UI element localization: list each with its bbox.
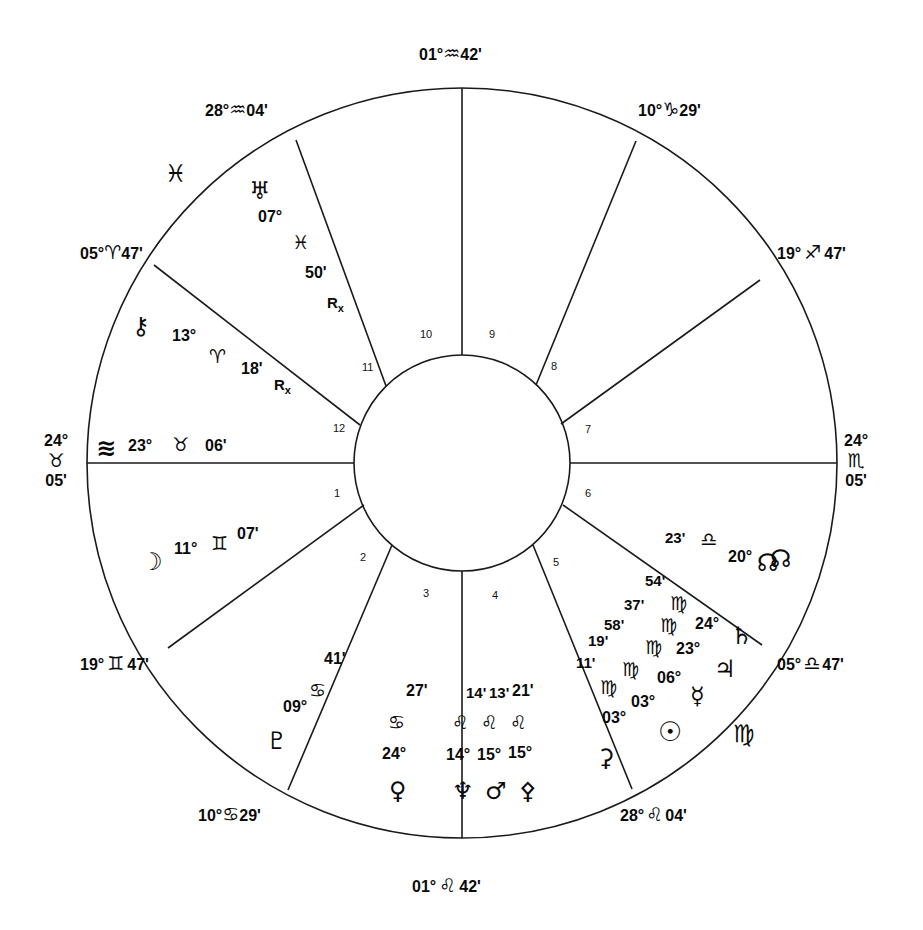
cusp-line-12	[154, 265, 360, 425]
planet-saturn-degree: 24°	[695, 615, 719, 633]
planet-mercury-minute: 58'	[604, 616, 624, 634]
venus-icon: ♀	[389, 777, 407, 805]
cusp-minute: 04'	[246, 102, 268, 119]
cusp-label-6: 05°♎47'	[777, 654, 844, 674]
planet-mars-sign: ♌	[481, 711, 498, 733]
ceres-icon: ⚳	[597, 744, 615, 772]
planet-pallas-degree: 15°	[508, 744, 532, 762]
cusp-minute: 05'	[844, 472, 868, 490]
cusp-degree: 24°	[844, 432, 868, 450]
planet-uranus-retrograde-marker: Rx	[327, 294, 344, 314]
cusp-minute: 47'	[822, 656, 844, 673]
planet-jupiter[interactable]: ♃	[714, 655, 736, 683]
cusp-label-9: 10°♑29'	[638, 100, 701, 120]
north-node-icon: ☊	[770, 545, 791, 573]
cusp-line-11	[296, 140, 386, 386]
planet-jupiter-degree: 23°	[676, 640, 700, 658]
taurus-icon: ♉	[172, 433, 189, 455]
cusp-degree: 24°	[44, 432, 68, 450]
planet-moon-sign: ♊	[211, 532, 228, 554]
house-number-2: 2	[360, 551, 366, 563]
sign-mark-virgo-icon: ♍	[733, 720, 755, 748]
planet-saturn[interactable]: ♄	[731, 622, 753, 650]
cusp-minute: 47'	[824, 245, 846, 262]
house-number-9: 9	[489, 328, 495, 340]
jupiter-icon: ♃	[714, 655, 736, 683]
house-number-12: 12	[333, 422, 345, 434]
planet-moon-degree: 11°	[174, 540, 197, 558]
house-number-1: 1	[334, 487, 340, 499]
chiron-icon: ⚷	[132, 312, 150, 340]
planet-north-node-sign: ♎	[700, 528, 717, 550]
planet-chiron[interactable]: ⚷	[132, 312, 150, 340]
cusp-minute: 42'	[460, 46, 482, 63]
ascendant-minute: 06'	[205, 437, 227, 455]
planet-uranus-minute: 50'	[305, 264, 327, 282]
planet-uranus[interactable]: ♅	[249, 177, 271, 205]
planet-venus[interactable]: ♀	[389, 777, 407, 805]
cusp-degree: 19°	[80, 656, 104, 673]
house-number-7: 7	[585, 423, 591, 435]
cusp-minute: 04'	[665, 807, 687, 824]
cusp-sign-glyph: ♌	[644, 803, 665, 825]
planet-mercury[interactable]: ☿	[690, 682, 705, 710]
planet-neptune[interactable]: ♆	[452, 777, 474, 805]
cusp-sign-glyph: ♋	[222, 803, 239, 825]
cusp-sign-glyph: ♊	[104, 652, 127, 674]
saturn-icon: ♄	[731, 622, 753, 650]
planet-mars[interactable]: ♂	[485, 777, 507, 805]
cusp-label-mc: 01°♒42'	[419, 44, 482, 64]
planet-chiron-retrograde-marker: Rx	[274, 376, 291, 396]
cusp-degree: 28°	[620, 807, 644, 824]
planet-neptune-minute: 14'	[466, 684, 486, 702]
planet-pluto-degree: 09°	[283, 698, 307, 716]
cusp-label-5: 28°♌04'	[620, 805, 687, 825]
cusp-minute: 29'	[239, 807, 261, 824]
cusp-sign-glyph: ♉	[44, 450, 68, 472]
inner-circle	[354, 355, 570, 571]
planet-saturn-sign: ♍	[670, 592, 687, 614]
leo-icon: ♌	[452, 711, 469, 733]
cusp-minute: 05'	[44, 472, 68, 490]
cusp-minute: 42'	[459, 878, 481, 895]
planet-uranus-sign: ♓	[292, 231, 309, 253]
planet-chiron-degree: 13°	[172, 327, 196, 345]
planet-pluto[interactable]: ♇	[266, 727, 288, 755]
cusp-sign-glyph: ♒	[443, 42, 460, 64]
house-number-4: 4	[492, 589, 498, 601]
planet-pallas[interactable]: ⚴	[519, 777, 537, 805]
planet-sun[interactable]: ☉	[658, 716, 682, 747]
cusp-line-2	[168, 505, 364, 648]
planet-pluto-sign: ♋	[309, 679, 326, 701]
aries-icon: ♈	[209, 345, 226, 367]
cusp-sign-glyph: ♐	[801, 241, 824, 263]
virgo-icon: ♍	[670, 592, 687, 614]
planet-ceres-minute: 11'	[576, 654, 595, 672]
uranus-icon: ♅	[249, 177, 271, 205]
gemini-icon: ♊	[211, 532, 228, 554]
cusp-line-9	[536, 141, 636, 385]
virgo-icon: ♍	[660, 614, 677, 636]
planet-north-node[interactable]: ☊	[770, 545, 791, 573]
cusp-degree: 05°	[80, 245, 104, 262]
cusp-line-8	[561, 280, 760, 424]
planet-moon[interactable]: ☽	[141, 548, 163, 576]
sun-icon: ☉	[658, 716, 682, 747]
mercury-icon: ☿	[690, 682, 705, 710]
planet-pallas-sign: ♌	[510, 711, 527, 733]
cusp-sign-glyph: ♎	[801, 652, 822, 674]
natal-chart-wheel: 01°♒42' 28°♒04' 10°♑29' 05°♈47' 19°♐47' …	[0, 0, 923, 930]
planet-mars-minute: 13'	[489, 684, 509, 702]
sign-mark-pisces-icon: ♓	[165, 160, 187, 188]
planet-ceres-degree: 03°	[602, 709, 626, 727]
cusp-degree: 10°	[198, 807, 222, 824]
planet-chiron-minute: 18'	[241, 360, 263, 378]
planet-ceres[interactable]: ⚳	[597, 744, 615, 772]
planet-neptune-degree: 14°	[446, 746, 470, 764]
leo-icon: ♌	[481, 711, 498, 733]
pisces-icon: ♓	[292, 231, 309, 253]
planet-jupiter-minute: 37'	[624, 596, 644, 614]
ascendant-point[interactable]: ≋	[96, 434, 116, 462]
cusp-sign-glyph: ♏	[844, 450, 868, 472]
ascendant-sign: ♉	[172, 433, 189, 455]
